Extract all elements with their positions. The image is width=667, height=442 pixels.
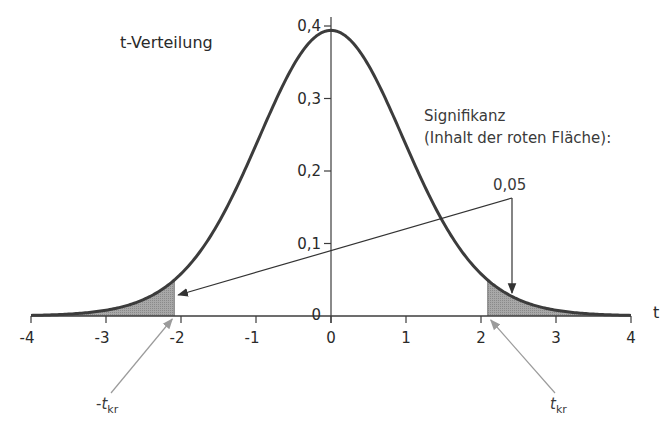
x-tick-label: 1 [401, 329, 411, 347]
x-tick-label: 0 [326, 329, 336, 347]
x-tick-label: -1 [245, 329, 260, 347]
x-tick-label: 4 [626, 329, 636, 347]
significance-label: Signifikanz [424, 107, 505, 125]
x-tick-label: -3 [95, 329, 110, 347]
y-axis: 00,10,20,30,4 [297, 17, 331, 324]
x-tick-label: 2 [476, 329, 486, 347]
label-subscript: kr [556, 403, 567, 416]
t-distribution-chart: -4-3-2-101234 00,10,20,30,4 t-Verteilung… [0, 0, 667, 442]
x-tick-label: 3 [551, 329, 561, 347]
y-tick-label: 0,4 [297, 17, 321, 35]
x-axis: -4-3-2-101234 [20, 316, 636, 347]
critical-value-pointer-right [491, 320, 555, 393]
x-tick-label: -2 [170, 329, 185, 347]
critical-value-label-left: -tkr [96, 395, 119, 416]
label-subscript: kr [107, 403, 118, 416]
y-tick-label: 0,1 [297, 235, 321, 253]
critical-value-pointer-left [111, 319, 172, 393]
x-axis-label: t [653, 303, 659, 322]
y-tick-label: 0,3 [297, 90, 321, 108]
y-tick-label: 0 [311, 306, 321, 324]
y-tick-label: 0,2 [297, 162, 321, 180]
critical-value-label-right: tkr [550, 395, 567, 416]
chart-title: t-Verteilung [120, 33, 213, 52]
significance-description: (Inhalt der roten Fläche): [424, 129, 611, 147]
x-tick-label: -4 [20, 329, 35, 347]
significance-value: 0,05 [493, 176, 526, 194]
annotation-arrow-left-tail [178, 198, 512, 295]
